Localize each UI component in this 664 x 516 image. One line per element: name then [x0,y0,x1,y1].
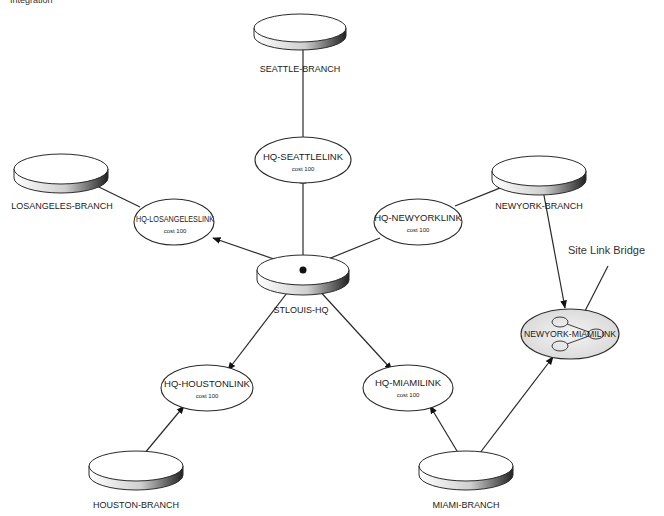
site-houston: HOUSTON-BRANCH [89,451,183,510]
link-label: HQ-HOUSTONLINK [164,378,251,389]
link-hq-newyork: HQ-NEWYORKLINK cost 100 [374,199,462,245]
connector-bridge-miami [470,357,553,466]
site-label: NEWYORK-BRANCH [495,201,583,211]
bridge-label: NEWYORK-MIAMILINK [524,328,617,339]
link-cost: cost 100 [164,228,187,234]
bridge-callout-text: Site Link Bridge [568,244,645,256]
link-hq-seattle: HQ-SEATTLELINK cost 100 [255,137,351,183]
link-hq-houston: HQ-HOUSTONLINK cost 100 [161,365,253,411]
link-cost: cost 100 [397,392,420,398]
connectors [66,42,608,466]
link-hq-miami: HQ-MIAMILINK cost 100 [363,365,453,411]
link-label: HQ-LOSANGELESLINK [136,213,215,224]
link-label: HQ-NEWYORKLINK [374,212,462,223]
site-label: SEATTLE-BRANCH [260,64,340,74]
site-newyork: NEWYORK-BRANCH [492,156,586,211]
site-label: LOSANGELES-BRANCH [11,201,113,211]
link-label: HQ-SEATTLELINK [263,151,344,162]
site-seattle: SEATTLE-BRANCH [254,14,346,74]
site-label: MIAMI-BRANCH [433,500,500,510]
hub-star-icon [300,267,307,274]
site-link-bridge: NEWYORK-MIAMILINK [521,309,619,359]
site-label: HOUSTON-BRANCH [93,500,179,510]
site-stlouis: STLOUIS-HQ [257,255,349,315]
link-hq-losangeles: HQ-LOSANGELESLINK cost 100 [134,199,215,245]
site-losangeles: LOSANGELES-BRANCH [11,154,113,211]
link-cost: cost 100 [196,393,219,399]
site-label: STLOUIS-HQ [273,305,328,315]
link-cost: cost 100 [407,227,430,233]
site-topology-diagram: SEATTLE-BRANCH LOSANGELES-BRANCH NEWYORK… [0,0,664,516]
link-cost: cost 100 [292,166,315,172]
link-label: HQ-MIAMILINK [375,377,442,388]
bridge-callout-line [585,266,608,311]
site-miami: MIAMI-BRANCH [419,451,513,510]
